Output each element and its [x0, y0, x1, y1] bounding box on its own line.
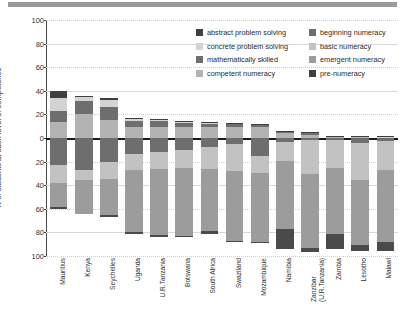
x-axis-label: Seychelles — [109, 258, 117, 290]
legend-item[interactable]: basic numeracy — [309, 40, 401, 54]
legend-swatch-icon — [309, 29, 316, 36]
bar-segment — [326, 140, 344, 168]
bar-segment — [150, 152, 168, 170]
legend-swatch-icon — [309, 70, 316, 77]
x-axis-label-line: Uganda — [134, 258, 142, 281]
x-axis-label: Kenya — [84, 258, 92, 277]
bar-segment — [125, 232, 143, 234]
bar-segment — [75, 180, 93, 213]
y-tick-label: 40 — [36, 86, 44, 95]
y-tick-label: 20 — [36, 157, 44, 166]
legend-item[interactable]: mathematically skilled — [196, 53, 308, 67]
x-axis-label-line: Mozambique — [260, 258, 268, 296]
y-tick-label: 20 — [36, 110, 44, 119]
bar-segment — [75, 96, 93, 97]
bar-segment — [226, 171, 244, 241]
legend-swatch-icon — [196, 29, 203, 36]
bar-segment — [75, 114, 93, 138]
bar-group[interactable] — [96, 20, 121, 256]
x-axis-label: Uganda — [134, 258, 142, 281]
bar-segment — [251, 124, 269, 125]
bar-segment — [75, 97, 93, 101]
legend-swatch-icon — [309, 56, 316, 63]
bar-segment — [75, 170, 93, 181]
bar-segment — [201, 169, 219, 232]
bar-segment — [251, 127, 269, 138]
bar-segment — [251, 156, 269, 174]
bar-segment — [175, 150, 193, 168]
x-axis-label: Zanzibar(U.R.Tanzania) — [310, 258, 325, 302]
x-axis-label-line: South Africa — [209, 258, 217, 294]
bar-group[interactable] — [46, 20, 71, 256]
bar-segment — [251, 138, 269, 156]
bar-group[interactable] — [147, 20, 172, 256]
legend: abstract problem solvingconcrete problem… — [196, 26, 401, 84]
bar-segment — [100, 98, 118, 99]
bar-segment — [50, 207, 68, 209]
bar-segment — [50, 183, 68, 207]
bar-segment — [50, 111, 68, 122]
bar-segment — [201, 127, 219, 138]
bar-segment — [301, 140, 319, 174]
y-tick-label: 100 — [31, 16, 44, 25]
chart-screenshot: % of students at each level of competenc… — [0, 0, 405, 328]
legend-swatch-icon — [309, 43, 316, 50]
bar-segment — [100, 107, 118, 120]
x-axis-label: Lesotho — [360, 258, 368, 281]
bar-segment — [276, 229, 294, 248]
bar-column[interactable] — [175, 20, 193, 256]
bar-segment — [175, 121, 193, 122]
bar-segment — [100, 162, 118, 180]
bar-segment — [150, 235, 168, 237]
bar-segment — [351, 245, 369, 251]
bar-column[interactable] — [150, 20, 168, 256]
x-axis-label: Botswana — [184, 258, 192, 287]
x-axis-label-line: U.R.Tanzania — [159, 258, 167, 298]
bar-segment — [125, 170, 143, 233]
bar-segment — [276, 161, 294, 229]
bar-segment — [150, 138, 168, 152]
x-axis-label: Mauritius — [59, 258, 67, 285]
bar-segment — [226, 241, 244, 242]
bar-segment — [175, 127, 193, 138]
legend-item[interactable]: abstract problem solving — [196, 26, 308, 40]
x-axis-label: U.R.Tanzania — [159, 258, 167, 298]
legend-label: competent numeracy — [207, 69, 275, 78]
bar-segment — [251, 242, 269, 243]
y-tick-label: 80 — [36, 39, 44, 48]
bar-segment — [377, 242, 395, 251]
y-tick-label: 80 — [36, 228, 44, 237]
bar-segment — [125, 121, 143, 127]
bar-group[interactable] — [172, 20, 197, 256]
bar-segment — [301, 133, 319, 135]
legend-item[interactable]: beginning numeracy — [309, 26, 401, 40]
bar-group[interactable] — [121, 20, 146, 256]
legend-item[interactable]: concrete problem solving — [196, 40, 308, 54]
bar-group[interactable] — [71, 20, 96, 256]
y-tick-label: 60 — [36, 204, 44, 213]
bar-segment — [125, 154, 143, 170]
bar-segment — [377, 170, 395, 242]
legend-column-left: abstract problem solvingconcrete problem… — [196, 26, 308, 80]
bar-segment — [100, 179, 118, 214]
x-axis-label: Swaziland — [235, 258, 243, 288]
bar-segment — [226, 123, 244, 124]
bar-column[interactable] — [100, 20, 118, 256]
legend-item[interactable]: pre-numeracy — [309, 67, 401, 81]
bar-column[interactable] — [125, 20, 143, 256]
y-tick-label: 100 — [31, 252, 44, 261]
bar-column[interactable] — [75, 20, 93, 256]
bar-segment — [100, 215, 118, 217]
x-axis-label-line: Namibia — [285, 258, 293, 282]
legend-item[interactable]: emergent numeracy — [309, 53, 401, 67]
bar-column[interactable] — [50, 20, 68, 256]
bar-segment — [175, 168, 193, 236]
bar-segment — [326, 234, 344, 249]
y-axis-ticks: 10080604020020406080100 — [0, 20, 44, 256]
y-tick-label: 40 — [36, 181, 44, 190]
bar-segment — [301, 248, 319, 252]
legend-item[interactable]: competent numeracy — [196, 67, 308, 81]
bar-segment — [226, 127, 244, 138]
x-axis-label: Zambia — [335, 258, 343, 280]
bar-segment — [50, 91, 68, 98]
